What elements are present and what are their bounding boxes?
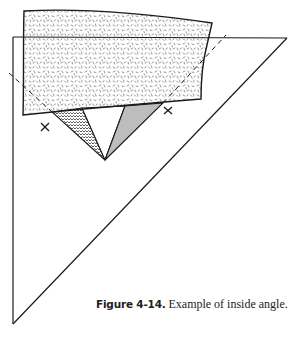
caption-text: Example of inside angle.: [168, 297, 287, 311]
caption-label: Figure 4-14.: [96, 298, 166, 310]
figure-caption: Figure 4-14. Example of inside angle.: [96, 297, 288, 312]
diagram-illustration: [0, 0, 300, 340]
x-mark-right: [164, 107, 172, 114]
figure: Figure 4-14. Example of inside angle.: [0, 0, 300, 340]
speckled-paper-rectangle: [23, 10, 212, 115]
x-mark-left: [41, 123, 49, 131]
